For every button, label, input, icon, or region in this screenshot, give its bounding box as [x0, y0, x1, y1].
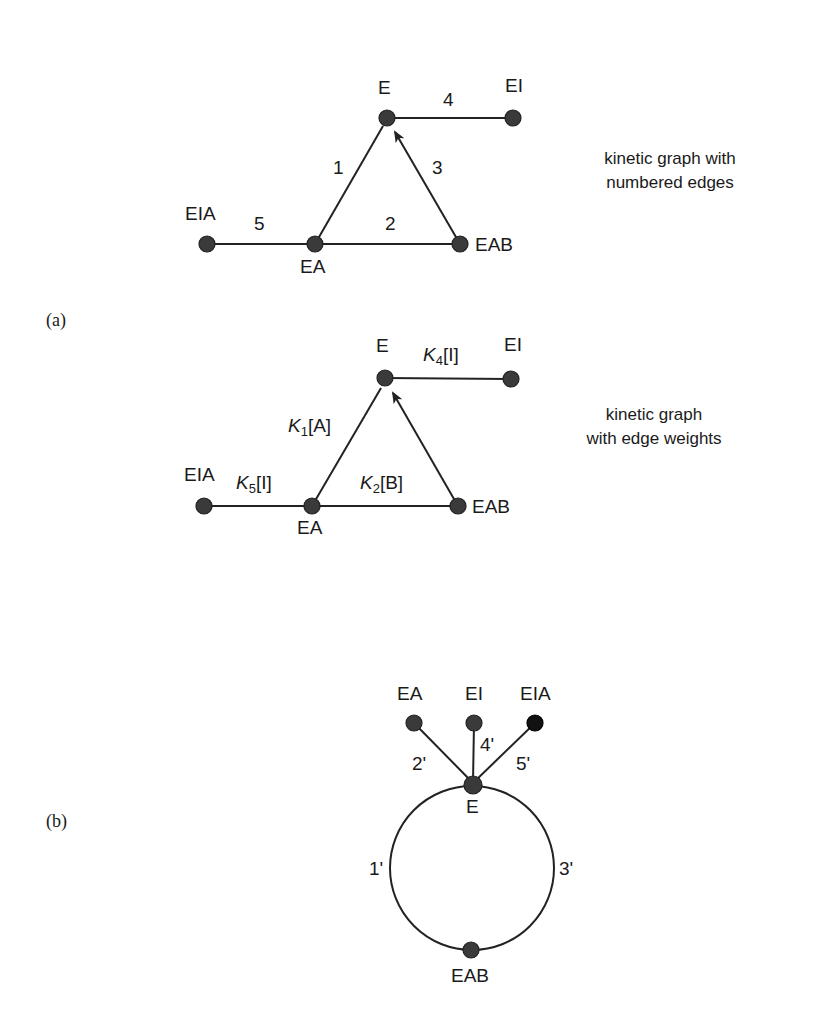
label-EI: EI	[465, 683, 483, 704]
label-EA: EA	[397, 683, 423, 704]
panel-label-a: (a)	[46, 310, 66, 331]
label-EAB: EAB	[472, 496, 510, 517]
edge-label-3: 3	[432, 157, 443, 178]
edge-weight-5: K5[I]	[236, 472, 272, 496]
label-EAB: EAB	[475, 234, 513, 255]
label-EAB: EAB	[451, 965, 489, 986]
panel-label-b: (b)	[46, 811, 67, 832]
kinetic-graph-figure: E EI EIA EA EAB 1 2 3 4 5 kinetic graph …	[0, 0, 813, 1016]
edge-label-2: 2	[385, 213, 396, 234]
caption-line1: kinetic graph	[606, 405, 702, 424]
edge-weight-2: K2[B]	[360, 472, 403, 496]
label-E: E	[378, 77, 391, 98]
caption-line2: with edge weights	[585, 429, 721, 448]
node-E	[377, 370, 393, 386]
node-E	[464, 776, 482, 794]
edge-label-5prime: 5'	[516, 753, 530, 774]
label-E: E	[466, 796, 479, 817]
node-EAB	[463, 942, 479, 958]
node-EI	[503, 371, 519, 387]
label-E: E	[376, 335, 389, 356]
edge-1	[315, 126, 383, 244]
caption-line2: numbered edges	[606, 173, 734, 192]
edge-3-arrow	[395, 132, 460, 244]
label-EA: EA	[297, 517, 323, 538]
node-EA	[304, 498, 320, 514]
label-EI: EI	[505, 75, 523, 96]
label-EI: EI	[504, 334, 522, 355]
label-EA: EA	[300, 256, 326, 277]
node-E	[379, 110, 395, 126]
caption-line1: kinetic graph with	[604, 149, 735, 168]
edge-4prime	[473, 723, 474, 783]
edge-weight-1: K1[A]	[288, 415, 331, 439]
node-EA	[307, 236, 323, 252]
edge-label-4prime: 4'	[480, 734, 494, 755]
edge-label-2prime: 2'	[412, 753, 426, 774]
node-EI	[466, 715, 482, 731]
node-EAB	[452, 236, 468, 252]
edge-4	[385, 378, 511, 379]
node-EAB	[450, 498, 466, 514]
edge-label-5: 5	[254, 213, 265, 234]
label-EIA: EIA	[184, 464, 215, 485]
node-EIA	[199, 236, 215, 252]
node-EIA	[196, 498, 212, 514]
node-EIA	[527, 715, 543, 731]
graph-cycle: EA EI EIA E EAB 2' 4' 5' 1' 3'	[369, 683, 573, 986]
edge-label-1prime: 1'	[369, 858, 383, 879]
node-EA	[406, 715, 422, 731]
label-EIA: EIA	[520, 683, 551, 704]
edge-label-3prime: 3'	[559, 858, 573, 879]
edge-weight-4: K4[I]	[423, 344, 459, 368]
label-EIA: EIA	[185, 203, 216, 224]
edge-label-1: 1	[333, 157, 344, 178]
graph-numbered-edges: E EI EIA EA EAB 1 2 3 4 5 kinetic graph …	[185, 75, 736, 277]
edge-label-4: 4	[443, 89, 454, 110]
graph-edge-weights: E EI EIA EA EAB K4[I] K1[A] K5[I] K2[B] …	[184, 334, 722, 538]
node-EI	[505, 110, 521, 126]
